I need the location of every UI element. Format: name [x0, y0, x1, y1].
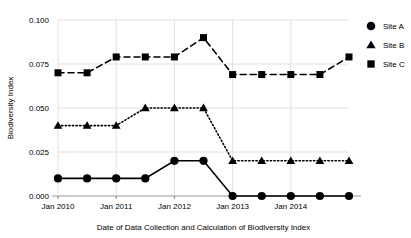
- data-point-site-a-8: [287, 192, 295, 200]
- series-line-site-a: [58, 161, 349, 196]
- series-site-c: [55, 34, 353, 78]
- data-point-site-c-9: [316, 71, 323, 78]
- series-site-b: [54, 104, 354, 164]
- legend-item-site-b[interactable]: Site B: [366, 40, 404, 50]
- data-point-site-a-2: [112, 174, 120, 182]
- data-point-site-a-6: [229, 192, 237, 200]
- data-point-site-c-4: [171, 53, 178, 60]
- circle-marker-icon: [367, 22, 376, 31]
- legend: Site ASite BSite C: [366, 22, 405, 69]
- data-point-site-c-3: [142, 53, 149, 60]
- legend-label-site-b: Site B: [383, 41, 404, 50]
- x-tick-label-3: Jan 2013: [216, 202, 249, 211]
- data-point-site-a-7: [258, 192, 266, 200]
- data-point-site-a-0: [54, 174, 62, 182]
- legend-item-site-a[interactable]: Site A: [367, 22, 405, 31]
- x-axis-title: Date of Data Collection and Calculation …: [97, 223, 310, 232]
- data-point-site-a-4: [170, 157, 178, 165]
- data-point-site-c-7: [258, 71, 265, 78]
- x-tick-label-1: Jan 2011: [100, 202, 133, 211]
- legend-label-site-c: Site C: [383, 60, 405, 69]
- data-point-site-b-8: [286, 156, 295, 164]
- data-point-site-c-10: [346, 53, 353, 60]
- data-point-site-b-4: [170, 104, 179, 112]
- y-axis-tick-labels: 0.0000.0250.0500.0750.100: [29, 16, 50, 201]
- y-tick-label-0: 0.000: [29, 192, 50, 201]
- series-line-site-b: [58, 108, 349, 161]
- y-axis-title: Biodiversity Index: [6, 77, 15, 140]
- triangle-marker-icon: [366, 40, 375, 48]
- y-tick-label-1: 0.025: [29, 148, 50, 157]
- data-point-site-b-0: [54, 121, 63, 129]
- series-line-site-c: [58, 38, 349, 75]
- x-tick-label-4: Jan 2014: [274, 202, 307, 211]
- data-point-site-c-1: [84, 69, 91, 76]
- data-point-site-a-3: [141, 174, 149, 182]
- y-tick-label-2: 0.050: [29, 104, 50, 113]
- data-point-site-c-2: [113, 53, 120, 60]
- chart-figure: 0.0000.0250.0500.0750.100Jan 2010Jan 201…: [0, 0, 411, 238]
- data-point-site-a-9: [316, 192, 324, 200]
- data-point-site-a-5: [199, 157, 207, 165]
- series-site-a: [54, 157, 353, 200]
- data-point-site-c-0: [55, 69, 62, 76]
- y-tick-label-4: 0.100: [29, 16, 50, 25]
- data-point-site-c-6: [229, 71, 236, 78]
- legend-label-site-a: Site A: [383, 22, 405, 31]
- x-tick-label-2: Jan 2012: [158, 202, 191, 211]
- legend-item-site-c[interactable]: Site C: [367, 60, 405, 69]
- x-axis-tick-labels: Jan 2010Jan 2011Jan 2012Jan 2013Jan 2014: [42, 196, 308, 211]
- square-marker-icon: [367, 60, 374, 67]
- data-point-site-a-10: [345, 192, 353, 200]
- y-tick-label-3: 0.075: [29, 60, 50, 69]
- data-point-site-c-5: [200, 34, 207, 41]
- data-point-site-a-1: [83, 174, 91, 182]
- biodiversity-index-line-chart: 0.0000.0250.0500.0750.100Jan 2010Jan 201…: [0, 0, 411, 238]
- data-point-site-c-8: [287, 71, 294, 78]
- x-tick-label-0: Jan 2010: [42, 202, 75, 211]
